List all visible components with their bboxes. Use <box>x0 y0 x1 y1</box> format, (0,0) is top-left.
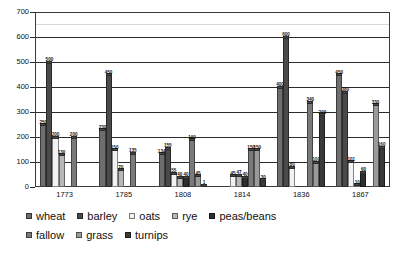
chart-legend: wheatbarleyoatsryepeas/beans fallowgrass… <box>26 206 386 244</box>
bar-slot: 160 <box>379 12 385 187</box>
bar-value-label: 80 <box>290 162 295 167</box>
bar-turnips-1814[interactable]: 30 <box>260 180 266 188</box>
bar-value-label: 160 <box>378 142 386 147</box>
bar-group-1814: 45474015015030 <box>218 12 267 187</box>
x-axis-tick-label: 1814 <box>234 190 251 199</box>
legend-item-fallow[interactable]: fallow <box>26 229 64 241</box>
bar-value-label: 45 <box>196 171 201 176</box>
legend-swatch-icon <box>76 232 82 238</box>
x-axis-tick-label: 1785 <box>115 190 132 199</box>
legend-label: peas/beans <box>219 210 276 222</box>
x-axis-tick-label: 1773 <box>56 190 73 199</box>
y-axis-tick-label: 400 <box>16 83 29 91</box>
legend-item-peas-beans[interactable]: peas/beans <box>209 210 276 222</box>
legend-item-barley[interactable]: barley <box>77 210 117 222</box>
y-axis-tick-label: 700 <box>16 8 29 16</box>
bar-value-label: 40 <box>177 172 182 177</box>
bar-value-label: 40 <box>183 172 188 177</box>
bar-group-1808: 134155554040190451 <box>159 12 208 187</box>
y-axis-tick-label: 100 <box>16 158 29 166</box>
bar-group-1785: 23045015070135 <box>99 12 148 187</box>
bar-value-label: 40 <box>243 172 248 177</box>
y-axis-tick-label: 300 <box>16 108 29 116</box>
legend-item-wheat[interactable]: wheat <box>26 210 65 222</box>
y-axis-tick-label: 0 <box>25 183 29 191</box>
bar-slot: 290 <box>319 12 325 187</box>
x-axis-tick-label: 1808 <box>175 190 192 199</box>
bar-group-1836: 40060080340100290 <box>277 12 326 187</box>
legend-label: fallow <box>36 229 64 241</box>
bar-slot <box>142 12 148 187</box>
y-axis: 0100200300400500600700 <box>0 12 35 187</box>
legend-item-rye[interactable]: rye <box>172 210 197 222</box>
legend-swatch-icon <box>26 232 32 238</box>
legend-swatch-icon <box>26 213 32 219</box>
legend-label: grass <box>86 229 113 241</box>
legend-label: turnips <box>135 229 168 241</box>
legend-item-turnips[interactable]: turnips <box>125 229 168 241</box>
bar-value-label: 290 <box>319 110 327 115</box>
bar-value-label: 30 <box>261 175 266 180</box>
legend-swatch-icon <box>125 232 131 238</box>
bar-value-label: 10 <box>355 180 360 185</box>
x-axis-tick-label: 1836 <box>293 190 310 199</box>
bar-slot: 1 <box>201 12 207 187</box>
y-axis-tick-label: 200 <box>16 133 29 141</box>
bar-slot <box>83 12 89 187</box>
legend-row-secondary: fallowgrassturnips <box>26 225 386 244</box>
legend-item-grass[interactable]: grass <box>76 229 113 241</box>
bars-layer: 2505002001302002304501507013513415555404… <box>35 12 390 187</box>
bar-turnips-1867[interactable]: 160 <box>379 147 385 187</box>
legend-label: barley <box>87 210 117 222</box>
bar-value-label: 60 <box>361 167 366 172</box>
legend-item-oats[interactable]: oats <box>129 210 160 222</box>
legend-label: rye <box>182 210 197 222</box>
x-axis-tick-label: 1867 <box>352 190 369 199</box>
bar-group-1773: 250500200130200 <box>40 12 89 187</box>
bar-value-label: 1 <box>203 180 206 185</box>
x-axis: 177317851808181418361867 <box>35 188 390 202</box>
bar-turnips-1808[interactable]: 1 <box>201 185 207 187</box>
bar-turnips-1836[interactable]: 290 <box>319 115 325 188</box>
bar-value-label: 70 <box>118 165 123 170</box>
y-axis-tick-label: 600 <box>16 33 29 41</box>
legend-swatch-icon <box>77 213 83 219</box>
bar-group-1867: 4503801011060330160 <box>336 12 385 187</box>
legend-swatch-icon <box>209 213 215 219</box>
legend-swatch-icon <box>129 213 135 219</box>
legend-label: oats <box>139 210 160 222</box>
bar-slot: 30 <box>260 12 266 187</box>
y-axis-tick-label: 500 <box>16 58 29 66</box>
chart-root: 0100200300400500600700 25050020013020023… <box>0 0 404 254</box>
legend-row-primary: wheatbarleyoatsryepeas/beans <box>26 206 386 225</box>
bar-value-label: 47 <box>236 170 241 175</box>
bar-value-label: 55 <box>171 168 176 173</box>
legend-swatch-icon <box>172 213 178 219</box>
legend-label: wheat <box>36 210 65 222</box>
bar-value-label: 45 <box>230 171 235 176</box>
